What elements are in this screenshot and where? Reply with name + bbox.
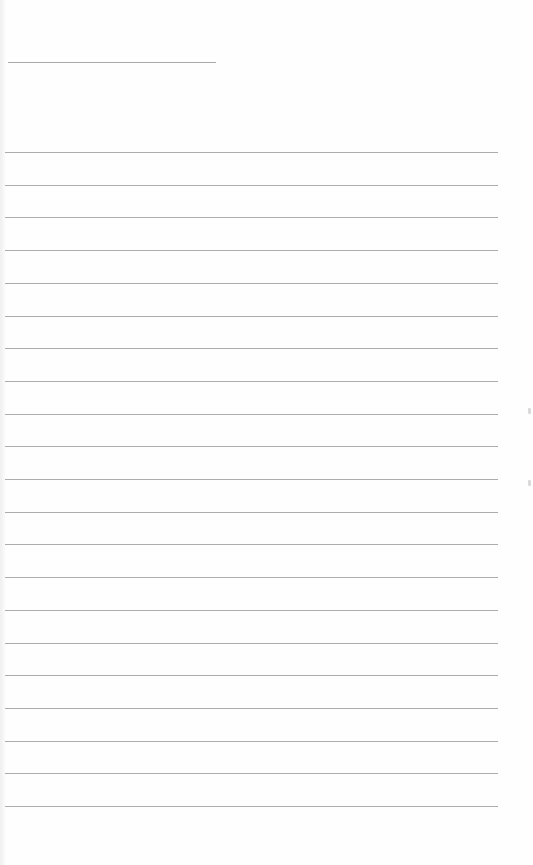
scan-speck [528, 480, 531, 486]
ruled-line [5, 610, 498, 611]
ruled-line [5, 283, 498, 284]
ruled-line [5, 741, 498, 742]
ruled-line [5, 414, 498, 415]
title-line [8, 62, 216, 63]
ruled-line [5, 708, 498, 709]
notepad-page [0, 0, 533, 865]
ruled-line [5, 806, 498, 807]
ruled-line [5, 152, 498, 153]
page-edge-shadow [0, 0, 6, 865]
ruled-line [5, 773, 498, 774]
ruled-line [5, 446, 498, 447]
ruled-line [5, 643, 498, 644]
ruled-line [5, 675, 498, 676]
ruled-line [5, 217, 498, 218]
ruled-line [5, 512, 498, 513]
ruled-line [5, 479, 498, 480]
ruled-line [5, 250, 498, 251]
ruled-line [5, 577, 498, 578]
scan-speck [528, 408, 531, 414]
ruled-line [5, 381, 498, 382]
ruled-line [5, 348, 498, 349]
ruled-line [5, 316, 498, 317]
ruled-line [5, 185, 498, 186]
ruled-line [5, 544, 498, 545]
